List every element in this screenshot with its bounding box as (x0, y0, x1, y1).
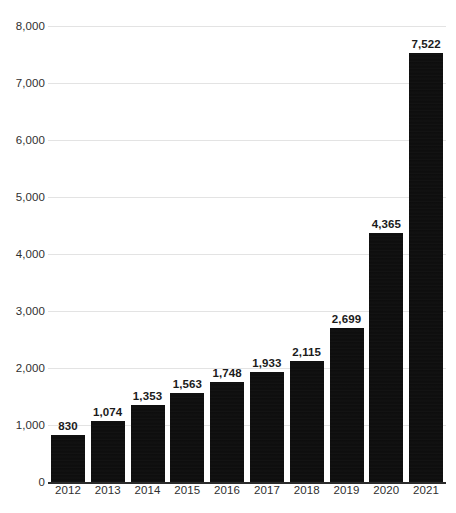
bar-value-label: 1,933 (252, 357, 281, 369)
x-tick-label: 2017 (247, 484, 287, 496)
x-tick-label: 2014 (128, 484, 168, 496)
bar-group: 1,563 (170, 26, 204, 482)
y-tick-label: 4,000 (0, 248, 45, 260)
x-tick-label: 2012 (48, 484, 88, 496)
bar-value-label: 2,699 (332, 313, 361, 325)
x-tick-label: 2013 (88, 484, 128, 496)
x-tick-label: 2018 (287, 484, 327, 496)
bars: 8301,0741,3531,5631,7481,9332,1152,6994,… (48, 26, 446, 482)
bar-group: 4,365 (369, 26, 403, 482)
y-tick-label: 2,000 (0, 362, 45, 374)
bar (330, 328, 364, 482)
x-tick-label: 2020 (366, 484, 406, 496)
bar-group: 1,933 (250, 26, 284, 482)
x-axis-labels: 2012201320142015201620172018201920202021 (48, 484, 446, 502)
y-tick-label: 0 (0, 476, 45, 488)
bar-value-label: 1,563 (173, 378, 202, 390)
y-tick-label: 6,000 (0, 134, 45, 146)
bar-group: 2,115 (290, 26, 324, 482)
bar (91, 421, 125, 482)
plot-area: 8301,0741,3531,5631,7481,9332,1152,6994,… (48, 26, 446, 482)
y-tick-label: 1,000 (0, 419, 45, 431)
y-tick-label: 7,000 (0, 77, 45, 89)
bar-value-label: 7,522 (411, 38, 440, 50)
x-tick-label: 2016 (207, 484, 247, 496)
bar-value-label: 1,353 (133, 390, 162, 402)
bar (131, 405, 165, 482)
y-axis-labels: 01,0002,0003,0004,0005,0006,0007,0008,00… (0, 0, 45, 513)
bar (210, 382, 244, 482)
bar (170, 393, 204, 482)
bar-value-label: 2,115 (292, 346, 321, 358)
y-tick-label: 8,000 (0, 20, 45, 32)
bar (51, 435, 85, 482)
x-tick-label: 2021 (406, 484, 446, 496)
x-tick-label: 2019 (327, 484, 367, 496)
y-tick-label: 3,000 (0, 305, 45, 317)
bar-group: 1,748 (210, 26, 244, 482)
bar-chart: 01,0002,0003,0004,0005,0006,0007,0008,00… (0, 0, 456, 513)
bar-group: 830 (51, 26, 85, 482)
bar-group: 7,522 (409, 26, 443, 482)
bar (369, 233, 403, 482)
bar (290, 361, 324, 482)
bar-group: 1,074 (91, 26, 125, 482)
bar (409, 53, 443, 482)
bar-group: 1,353 (131, 26, 165, 482)
y-tick-label: 5,000 (0, 191, 45, 203)
bar-value-label: 830 (58, 420, 78, 432)
bar-value-label: 1,748 (212, 367, 241, 379)
bar (250, 372, 284, 482)
bar-value-label: 1,074 (93, 406, 122, 418)
bar-value-label: 4,365 (372, 218, 401, 230)
bar-group: 2,699 (330, 26, 364, 482)
x-tick-label: 2015 (167, 484, 207, 496)
